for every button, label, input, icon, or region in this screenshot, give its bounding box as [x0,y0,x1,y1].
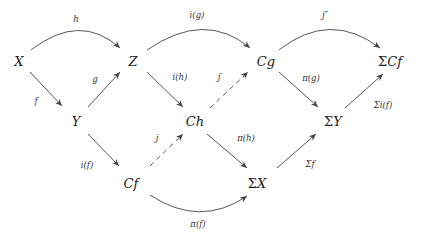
label-j: j [154,133,159,143]
label-sigma-f: Σf [304,159,316,169]
arrow-i-g [147,29,250,50]
label-pi-g: π(g) [301,73,320,83]
node-Cf: Cf [124,176,141,191]
node-Cg: Cg [257,54,275,69]
label-h: h [73,14,78,24]
arrow-h [31,30,120,50]
node-Y: Y [72,114,82,129]
arrow-pi-f [150,195,247,212]
label-j-prime: j′ [216,72,223,82]
label-i-g: i(g) [190,10,205,20]
arrow-j-prime [210,72,248,108]
label-i-h: i(h) [173,72,188,82]
commutative-diagram: X Z Cg ΣCf Y Ch ΣY Cf ΣX h i(g) j″ g f i… [0,0,424,244]
node-Z: Z [127,54,138,69]
node-sigma-X: ΣX [248,176,267,191]
node-sigma-Cf: ΣCf [378,54,404,69]
node-Ch: Ch [186,114,204,129]
node-X: X [13,54,24,69]
label-sigma-i-f: Σi(f) [373,100,393,110]
node-sigma-Y: ΣY [324,114,343,129]
label-g: g [92,74,98,84]
label-j-double-prime: j″ [320,10,329,20]
label-pi-f: π(f) [189,219,205,229]
label-i-f: i(f) [81,160,94,170]
label-pi-h: π(h) [236,133,255,143]
arrow-j-double-prime [279,29,380,50]
label-f: f [33,96,39,106]
